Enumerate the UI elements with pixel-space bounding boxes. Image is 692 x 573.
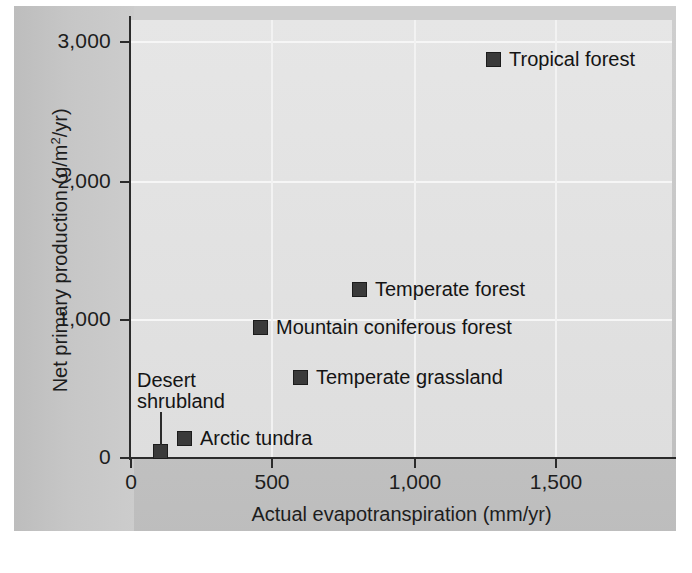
x-tick-label-1500: 1,500 xyxy=(506,470,606,494)
data-label-arctic-tundra: Arctic tundra xyxy=(200,427,312,450)
x-tick-label-0: 0 xyxy=(81,470,181,494)
x-axis-line xyxy=(129,457,676,459)
gridline-y-3000 xyxy=(131,41,672,43)
y-axis-title-superscript: 2 xyxy=(48,137,63,144)
x-tick-500 xyxy=(271,457,273,468)
data-label-temperate-forest: Temperate forest xyxy=(375,278,525,301)
x-tick-1500 xyxy=(555,457,557,468)
data-marker-temperate-forest[interactable] xyxy=(352,282,367,297)
y-axis-title-main: Net primary production (g/m xyxy=(49,144,71,392)
data-label-mountain-coniferous-forest: Mountain coniferous forest xyxy=(276,316,512,339)
data-label-desert-shrubland-line2: shrubland xyxy=(137,390,225,412)
gridline-y-2000 xyxy=(131,181,672,183)
y-axis-title-tail: /yr) xyxy=(49,108,71,137)
gridline-x-1000 xyxy=(414,20,416,458)
x-tick-0 xyxy=(130,457,132,468)
x-axis-title: Actual evapotranspiration (mm/yr) xyxy=(131,503,672,526)
data-label-temperate-grassland: Temperate grassland xyxy=(316,366,503,389)
figure-scatter-npp-vs-evapotranspiration: 3,000 2,000 1,000 0 0 500 1,000 1,500 Ne… xyxy=(0,0,692,573)
data-marker-tropical-forest[interactable] xyxy=(486,52,501,67)
x-tick-label-1000: 1,000 xyxy=(365,470,465,494)
y-tick-2000 xyxy=(120,181,131,183)
data-marker-temperate-grassland[interactable] xyxy=(293,370,308,385)
y-axis-line xyxy=(129,16,131,460)
x-tick-label-500: 500 xyxy=(222,470,322,494)
y-tick-1000 xyxy=(120,319,131,321)
x-tick-1000 xyxy=(414,457,416,468)
data-marker-desert-shrubland[interactable] xyxy=(153,444,168,459)
data-label-desert-shrubland-line1: Desert xyxy=(137,369,196,391)
data-label-tropical-forest: Tropical forest xyxy=(509,48,635,71)
data-label-desert-shrubland: Desert shrubland xyxy=(137,370,257,412)
data-marker-arctic-tundra[interactable] xyxy=(177,431,192,446)
y-tick-3000 xyxy=(120,41,131,43)
gridline-x-500 xyxy=(271,20,273,458)
gridline-x-1500 xyxy=(555,20,557,458)
y-axis-title: Net primary production (g/m2/yr) xyxy=(48,40,73,460)
leader-line-desert-shrubland xyxy=(160,412,162,445)
data-marker-mountain-coniferous-forest[interactable] xyxy=(253,320,268,335)
